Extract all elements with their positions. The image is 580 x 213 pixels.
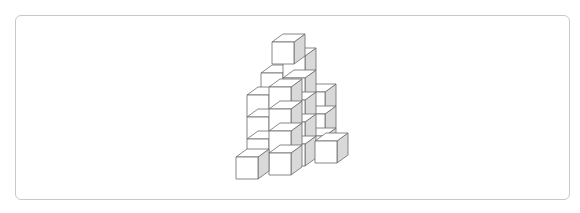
cube — [272, 34, 305, 64]
cube-front-face — [269, 153, 291, 175]
cube — [315, 133, 348, 163]
cube-front-face — [236, 157, 258, 179]
cube — [236, 149, 269, 179]
cube-front-face — [272, 42, 294, 64]
cube — [269, 145, 302, 175]
cube-front-face — [315, 141, 337, 163]
cube-stack-diagram — [0, 0, 580, 213]
